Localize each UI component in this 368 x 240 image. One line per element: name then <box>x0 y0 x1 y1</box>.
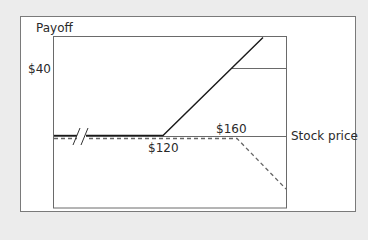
x-axis-label: Stock price <box>291 130 358 142</box>
x-tick-label-120: $120 <box>148 142 179 154</box>
x-tick-label-160: $160 <box>216 123 247 135</box>
y-axis-label: Payoff <box>36 22 73 34</box>
plot-area <box>54 37 287 209</box>
y-tick-label-40: $40 <box>28 63 51 75</box>
solid-payoff-line-main <box>86 38 263 136</box>
